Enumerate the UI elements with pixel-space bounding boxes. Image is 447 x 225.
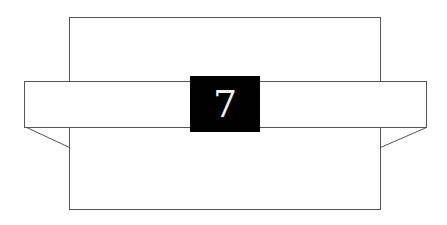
- diagram-canvas: 7: [0, 0, 447, 225]
- right-flap: [381, 128, 427, 148]
- label-box: 7: [190, 76, 260, 132]
- left-flap: [25, 127, 70, 148]
- label-text: 7: [213, 85, 237, 123]
